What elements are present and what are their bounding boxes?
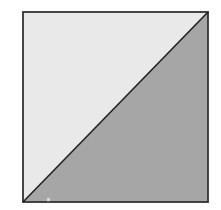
diagram-canvas xyxy=(0,0,221,210)
corner-marker xyxy=(47,198,50,201)
